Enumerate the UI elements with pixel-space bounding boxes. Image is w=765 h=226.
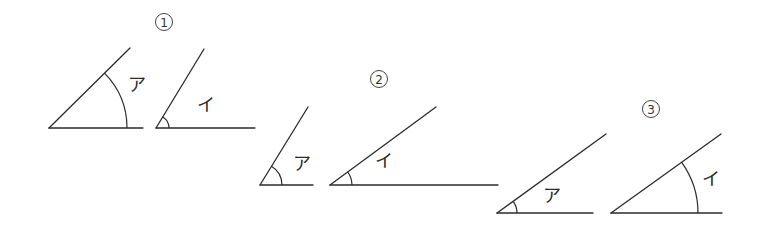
problem-3: 3 ア イ [497,101,722,214]
problem-2: 2 ア イ [260,71,498,186]
angle-label: ア [293,153,311,174]
number-marker-1: 1 [156,14,173,31]
angle-1-b: イ [156,49,255,128]
angle-arc [105,73,128,128]
angle-arc [272,166,283,185]
angle-3-a: ア [497,134,606,213]
angle-ray-line [49,48,130,128]
number-marker-3: 3 [643,101,660,118]
angle-label: イ [375,150,393,171]
angle-label: イ [702,168,720,189]
angle-comparison-diagram: 1 ア イ 2 ア イ [0,0,765,226]
angle-arc [163,117,169,128]
number-label: 3 [647,103,655,117]
number-label: 2 [375,73,383,87]
angle-ray-line [330,107,436,185]
angle-label: イ [197,94,215,115]
angle-label: ア [128,74,146,95]
angle-arc [348,172,352,185]
angle-1-a: ア [49,48,146,128]
number-label: 1 [160,16,168,30]
problem-1: 1 ア イ [49,14,255,129]
angle-2-b: イ [330,107,498,185]
angle-ray-line [156,49,204,128]
angle-arc [513,201,517,213]
angle-label: ア [543,185,561,206]
angle-arc [682,162,698,213]
number-marker-2: 2 [371,71,388,88]
angle-2-a: ア [260,107,313,185]
angle-3-b: イ [611,134,722,213]
